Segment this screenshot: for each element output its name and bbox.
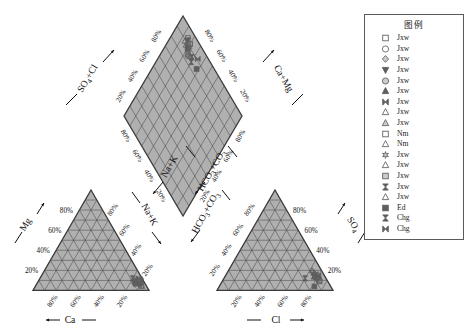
legend-item-label: Jxw (397, 150, 409, 160)
anion-cl-tick: 60% (276, 294, 290, 309)
legend-item-label: Jxw (397, 182, 409, 192)
cation-bottom-tick: 60% (69, 294, 83, 309)
cation-mg-tick: 80% (60, 207, 73, 215)
data-marker-square-filled (194, 67, 199, 72)
square-open-icon (379, 33, 391, 43)
legend-item[interactable]: Jxw (379, 118, 463, 129)
anion-cl-arrow (290, 319, 304, 322)
legend-item[interactable]: Jxw (379, 150, 463, 161)
diamond-so4cl-label: SO4+Cl (75, 62, 101, 95)
legend-item[interactable]: Jxw (379, 33, 463, 44)
data-marker-triangle-down-filled (382, 67, 388, 73)
data-marker-hourglass-filled (382, 226, 388, 232)
anion-so4-tick: 40% (316, 247, 329, 255)
cation-nak-tick: 60% (118, 222, 132, 237)
hourglass-filled-icon (379, 97, 391, 107)
data-marker-hourglass-filled (382, 99, 388, 105)
square-light-icon (379, 171, 391, 181)
anion-cl-tick: 20% (230, 294, 244, 309)
diamond-nak-tick: 80% (119, 128, 133, 143)
triangle-up-filled-icon (379, 86, 391, 96)
diamond-camg-arrow (263, 50, 274, 62)
anion-cl-tick: 40% (253, 294, 267, 309)
bowtie-filled-icon (379, 182, 391, 192)
legend-item[interactable]: Jxw (379, 75, 463, 86)
anion-so4-arrow (338, 203, 345, 214)
cation-nak-label: Na+K (140, 201, 161, 227)
legend-item[interactable]: Jxw (379, 107, 463, 118)
legend-item[interactable]: Jxw (379, 54, 463, 65)
piper-diagram: 80%60%40%20%Ca20%40%60%80%Mg20%40%60%80%… (0, 0, 471, 335)
legend-item[interactable]: Jxw (379, 86, 463, 97)
diamond-camg-tick: 80% (203, 28, 217, 43)
anion-cl-label: Cl (271, 314, 280, 325)
legend-item-label: Jxw (397, 65, 409, 75)
data-marker-bowtie-filled (382, 215, 388, 221)
cation-mg-tick: 40% (37, 247, 50, 255)
data-marker-triangle-up-open (382, 109, 388, 115)
data-marker-triangle-up-light (382, 120, 388, 126)
legend-item[interactable]: Jxw (379, 44, 463, 55)
legend-item[interactable]: Jxw (379, 181, 463, 192)
anion-hco3-tick: 60% (231, 222, 245, 237)
star-light-icon (379, 150, 391, 160)
legend-item[interactable]: Ed (379, 203, 463, 214)
legend-item[interactable]: Jxw (379, 192, 463, 203)
data-marker-square-light (317, 279, 322, 284)
legend-item-label: Chg (397, 213, 410, 223)
diamond-camg-tick: 20% (238, 88, 252, 103)
legend-item-label: Jxw (397, 107, 409, 117)
legend-item-label: Jxw (397, 97, 409, 107)
triangle-up-light-icon (379, 118, 391, 128)
diamond-camg-tick: 60% (215, 48, 229, 63)
anion-so4-tick: 60% (305, 227, 318, 235)
diamond-so4cl-tick: 40% (126, 68, 140, 83)
data-marker-triangle-up-filled (382, 88, 388, 94)
legend-item-label: Jxw (397, 160, 409, 170)
diamond-camg-label: Ca+Mg (272, 63, 296, 94)
cation-ca-label: Ca (65, 314, 76, 325)
data-marker-triangle-up-small (382, 194, 388, 200)
square-filled-icon (379, 203, 391, 213)
triangle-up-open-icon (379, 107, 391, 117)
legend-item-label: Nm (397, 139, 408, 149)
anion-so4-tick: 80% (293, 207, 306, 215)
legend-item[interactable]: Jxw (379, 97, 463, 108)
anion-hco3-tick: 40% (220, 242, 234, 257)
data-marker-triangle-up-open (382, 141, 388, 147)
diamond-field (124, 16, 242, 216)
axis-rule (15, 232, 22, 243)
legend-item-label: Ed (397, 203, 405, 213)
data-marker-square-open (382, 36, 388, 42)
data-marker-triangle-up-open (382, 162, 388, 168)
cation-bottom-tick: 20% (115, 294, 129, 309)
cation-ca-arrow (46, 319, 60, 322)
data-marker-square-open (382, 131, 388, 137)
anion-hco3-tick: 20% (208, 263, 222, 278)
diamond-light-icon (379, 54, 391, 64)
legend-item-label: Nm (397, 129, 408, 139)
cation-bottom-tick: 80% (46, 294, 60, 309)
legend-item-label: Jxw (397, 76, 409, 86)
legend-item[interactable]: Jxw (379, 160, 463, 171)
legend-item[interactable]: Nm (379, 139, 463, 150)
bowtie-filled-icon (379, 213, 391, 223)
square-open-icon (379, 129, 391, 139)
legend-item-label: Jxw (397, 54, 409, 64)
cation-nak-tick: 40% (129, 242, 143, 257)
legend-item-label: Jxw (397, 44, 409, 54)
axis-rule (132, 192, 140, 203)
legend-item[interactable]: Jxw (379, 65, 463, 76)
cation-nak-tick: 20% (141, 263, 155, 278)
legend-item[interactable]: Chg (379, 224, 463, 235)
data-marker-square-filled (382, 205, 388, 211)
legend-item[interactable]: Nm (379, 128, 463, 139)
anion-so4-tick: 20% (328, 267, 341, 275)
circle-light-icon (379, 76, 391, 86)
legend-item-label: Jxw (397, 118, 409, 128)
legend-item[interactable]: Jxw (379, 171, 463, 182)
legend-item-list: JxwJxwJxwJxwJxwJxwJxwJxwJxwNmNmJxwJxwJxw… (365, 32, 463, 234)
anion-hco3-tick: 80% (243, 202, 257, 217)
legend-item[interactable]: Chg (379, 213, 463, 224)
cation-mg-label: Mg (17, 215, 33, 232)
